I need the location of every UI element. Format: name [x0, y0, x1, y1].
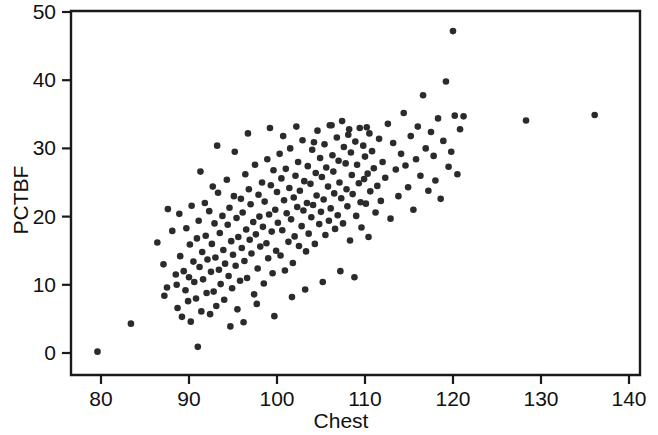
data-point — [390, 140, 397, 147]
data-point — [454, 171, 461, 178]
data-point — [312, 241, 319, 248]
data-point — [203, 290, 210, 297]
data-point — [177, 253, 184, 260]
data-point — [294, 204, 301, 211]
data-point — [405, 184, 412, 191]
data-point — [591, 112, 598, 119]
data-point — [240, 319, 247, 326]
data-point — [188, 202, 195, 209]
data-point — [255, 191, 262, 198]
data-point — [231, 149, 238, 156]
data-point — [305, 163, 312, 170]
data-point — [187, 241, 194, 248]
data-point — [346, 126, 353, 133]
data-point — [241, 258, 248, 265]
data-point — [298, 223, 305, 230]
data-point — [382, 174, 389, 181]
x-tick-label: 90 — [177, 387, 200, 410]
data-point — [210, 288, 217, 295]
data-point — [254, 265, 261, 272]
data-point — [313, 192, 320, 199]
data-point — [309, 146, 316, 153]
data-point — [288, 216, 295, 223]
data-point — [356, 125, 363, 132]
data-point — [341, 144, 348, 151]
data-point — [277, 252, 284, 259]
data-point — [206, 208, 213, 215]
data-point — [290, 260, 297, 267]
data-point — [231, 193, 238, 200]
y-tick-label: 10 — [33, 273, 56, 296]
data-point — [440, 138, 447, 145]
data-point — [321, 141, 328, 148]
data-point — [224, 176, 231, 183]
x-tick-label: 110 — [348, 387, 381, 410]
data-point — [221, 297, 228, 304]
data-point — [282, 267, 289, 274]
data-point — [219, 213, 226, 220]
data-point — [211, 220, 218, 227]
data-point — [234, 306, 241, 313]
data-point — [238, 196, 245, 203]
data-point — [360, 142, 367, 149]
y-tick-label: 20 — [33, 205, 56, 228]
data-point — [335, 157, 342, 164]
data-point — [437, 196, 444, 203]
data-point — [217, 281, 224, 288]
data-point — [445, 164, 452, 171]
data-point — [342, 160, 349, 167]
data-point — [268, 182, 275, 189]
data-point — [164, 284, 171, 291]
data-point — [457, 126, 464, 133]
data-point — [274, 189, 281, 196]
data-point — [196, 264, 203, 271]
y-tick-label: 50 — [33, 0, 56, 23]
data-point — [316, 221, 323, 228]
data-point — [161, 292, 168, 299]
data-point — [343, 186, 350, 193]
data-point — [209, 183, 216, 190]
data-point — [413, 156, 420, 163]
data-point — [215, 189, 222, 196]
data-point — [428, 129, 435, 136]
data-point — [246, 236, 253, 243]
y-tick-label: 0 — [44, 341, 56, 364]
data-point — [266, 211, 273, 218]
data-point — [182, 287, 189, 294]
data-point — [199, 249, 206, 256]
data-point — [180, 268, 187, 275]
data-point — [230, 251, 237, 258]
data-point — [251, 291, 258, 298]
data-point — [293, 123, 300, 130]
data-point — [363, 200, 370, 207]
data-point — [250, 219, 257, 226]
data-point — [314, 127, 321, 134]
data-point — [259, 179, 266, 186]
data-point — [523, 117, 530, 124]
data-point — [229, 285, 236, 292]
data-point — [94, 348, 101, 355]
data-point — [415, 123, 422, 130]
data-point — [194, 235, 201, 242]
data-point — [363, 124, 370, 131]
data-point — [432, 177, 439, 184]
data-point — [260, 224, 267, 231]
data-point — [371, 165, 378, 172]
data-point — [160, 261, 167, 268]
data-point — [337, 268, 344, 275]
data-point — [242, 171, 249, 178]
data-point — [283, 166, 290, 173]
data-point — [385, 121, 392, 128]
data-point — [398, 151, 405, 158]
data-point — [325, 183, 332, 190]
data-point — [207, 311, 214, 318]
data-point — [308, 214, 315, 221]
data-point — [190, 258, 197, 265]
data-point — [281, 197, 288, 204]
data-point — [276, 151, 283, 158]
data-point — [271, 313, 278, 320]
data-point — [358, 224, 365, 231]
data-point — [195, 217, 202, 224]
data-point — [443, 78, 450, 85]
data-point — [179, 314, 186, 321]
